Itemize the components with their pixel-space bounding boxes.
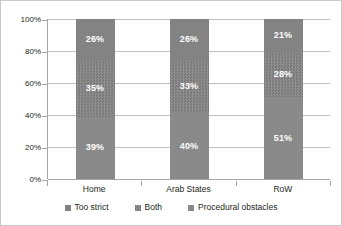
ytick-label-40: 40% [25, 112, 41, 120]
ytick-label-80: 80% [25, 48, 41, 56]
xtick-sep-3 [330, 181, 331, 186]
segment-label-row-procedural-obstacles: 51% [274, 134, 293, 143]
stacked-bar-chart: 100% 80% 60% 40% 20% 0% [0, 0, 342, 226]
x-axis-label-row: RoW [236, 181, 330, 197]
legend-label-both: Both [145, 203, 163, 212]
segment-home-both[interactable]: 35% [76, 61, 115, 117]
stacked-bar-arab-states[interactable]: 26% 33% 40% [170, 19, 209, 179]
legend-item-procedural-obstacles[interactable]: Procedural obstacles [188, 203, 277, 212]
segment-label-row-both: 28% [274, 70, 293, 79]
gridline-0: 0% [48, 179, 330, 180]
ytick-label-0: 0% [29, 176, 41, 184]
legend-swatch-icon-too-strict [65, 205, 71, 211]
x-axis: Home Arab States RoW [47, 181, 330, 197]
segment-arab-states-too-strict[interactable]: 26% [170, 19, 209, 61]
xtick-sep-2 [236, 181, 237, 186]
segment-label-home-procedural-obstacles: 39% [86, 143, 105, 152]
segment-row-too-strict[interactable]: 21% [264, 19, 303, 53]
legend-label-too-strict: Too strict [75, 203, 109, 212]
segment-arab-states-procedural-obstacles[interactable]: 40% [170, 113, 209, 179]
bar-group: 26% 35% 39% 26% [48, 19, 330, 179]
legend-label-procedural-obstacles: Procedural obstacles [198, 203, 277, 212]
x-axis-label-arab-states: Arab States [141, 181, 235, 197]
xtick-sep-0 [47, 181, 48, 186]
segment-label-home-too-strict: 26% [86, 35, 105, 44]
plot-frame: 100% 80% 60% 40% 20% 0% [47, 19, 330, 179]
segment-home-procedural-obstacles[interactable]: 39% [76, 117, 115, 179]
legend-swatch-icon-procedural-obstacles [188, 205, 194, 211]
ytick-label-100: 100% [21, 16, 41, 24]
legend-item-too-strict[interactable]: Too strict [65, 203, 109, 212]
stacked-bar-row[interactable]: 21% 28% 51% [264, 19, 303, 179]
segment-label-arab-states-procedural-obstacles: 40% [180, 142, 199, 151]
x-axis-label-home: Home [47, 181, 141, 197]
legend-item-both[interactable]: Both [135, 203, 163, 212]
segment-row-both[interactable]: 28% [264, 53, 303, 98]
plot-area: 100% 80% 60% 40% 20% 0% [47, 19, 330, 179]
legend-swatch-icon-both [135, 205, 141, 211]
bar-slot-home: 26% 35% 39% [48, 19, 142, 179]
segment-arab-states-both[interactable]: 33% [170, 61, 209, 114]
xtick-sep-1 [141, 181, 142, 186]
stacked-bar-home[interactable]: 26% 35% 39% [76, 19, 115, 179]
chart-legend: Too strict Both Procedural obstacles [0, 203, 342, 212]
segment-label-row-too-strict: 21% [274, 31, 293, 40]
segment-label-arab-states-both: 33% [180, 82, 199, 91]
segment-label-arab-states-too-strict: 26% [180, 35, 199, 44]
segment-home-too-strict[interactable]: 26% [76, 19, 115, 61]
ytick-label-20: 20% [25, 144, 41, 152]
segment-label-home-both: 35% [86, 84, 105, 93]
segment-row-procedural-obstacles[interactable]: 51% [264, 97, 303, 179]
ytick-label-60: 60% [25, 80, 41, 88]
bar-slot-row: 21% 28% 51% [236, 19, 330, 179]
bar-slot-arab-states: 26% 33% 40% [142, 19, 236, 179]
